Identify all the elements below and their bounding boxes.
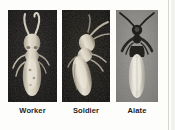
photo-worker [8, 10, 57, 102]
photo-soldier [62, 10, 110, 102]
panel-row: Worker [8, 10, 158, 130]
caption-alate: Alate [116, 106, 158, 116]
termite-caste-figure: Worker [0, 0, 175, 130]
caption-worker: Worker [8, 106, 57, 116]
page-margin [171, 0, 175, 130]
panel-alate: Alate [116, 10, 158, 120]
page-edge-rule [168, 0, 169, 130]
photo-alate [116, 10, 158, 102]
caption-soldier: Soldier [62, 106, 110, 116]
panel-soldier: Soldier [62, 10, 110, 120]
panel-worker: Worker [8, 10, 57, 120]
